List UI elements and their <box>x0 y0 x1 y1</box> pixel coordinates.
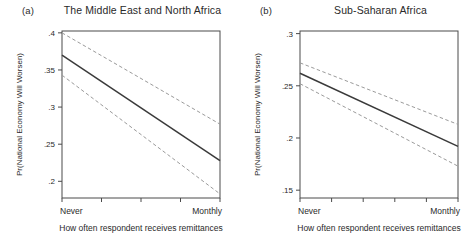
y-axis-title-b: Pr(National Economy Will Worsen) <box>253 53 262 176</box>
y-tick-label-b-3: .15 <box>282 186 294 195</box>
panel-a-plot: .4.35.3.25.2NeverMonthlyHow often respon… <box>0 0 237 241</box>
series-line-b-1 <box>300 63 458 125</box>
x-tick-label-never-b: Never <box>298 206 321 216</box>
panel-b-plot: .3.25.2.15NeverMonthlyHow often responde… <box>238 0 475 241</box>
plot-frame-a <box>62 31 220 198</box>
series-line-b-0 <box>300 73 458 146</box>
x-tick-label-never-a: Never <box>60 206 83 216</box>
x-axis-title-b: How often respondent receives remittance… <box>297 223 460 233</box>
y-tick-label-a-4: .2 <box>48 177 55 186</box>
x-tick-label-monthly-b: Monthly <box>430 206 461 216</box>
x-tick-label-monthly-a: Monthly <box>192 206 223 216</box>
y-tick-label-a-0: .4 <box>48 29 55 38</box>
x-axis-title-a: How often respondent receives remittance… <box>59 223 222 233</box>
plot-frame-b <box>300 31 458 198</box>
series-line-a-2 <box>62 75 220 194</box>
series-line-a-0 <box>62 55 220 160</box>
y-tick-label-b-2: .2 <box>286 134 293 143</box>
y-tick-label-a-2: .3 <box>48 103 55 112</box>
y-tick-label-a-3: .25 <box>44 140 56 149</box>
series-line-b-2 <box>300 84 458 166</box>
series-line-a-1 <box>62 33 220 124</box>
panel-b: (b) Sub-Saharan Africa .3.25.2.15NeverMo… <box>238 0 475 241</box>
y-axis-title-a: Pr(National Economy Will Worsen) <box>15 53 24 176</box>
y-tick-label-a-1: .35 <box>44 66 56 75</box>
y-tick-label-b-1: .25 <box>282 82 294 91</box>
y-tick-label-b-0: .3 <box>286 30 293 39</box>
figure-container: (a) The Middle East and North Africa .4.… <box>0 0 475 241</box>
panel-a: (a) The Middle East and North Africa .4.… <box>0 0 237 241</box>
